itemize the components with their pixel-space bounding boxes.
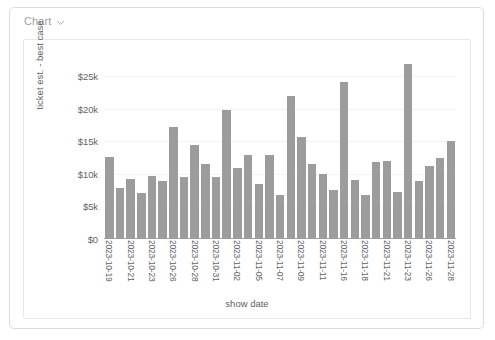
- bar[interactable]: [340, 82, 348, 238]
- bar[interactable]: [361, 195, 369, 238]
- x-tick-slot: [136, 240, 147, 302]
- x-axis-tick-label: 2023-11-18: [360, 240, 370, 281]
- x-axis-tick-label: 2023-11-21: [382, 240, 392, 281]
- bar[interactable]: [372, 162, 380, 238]
- bar[interactable]: [233, 168, 241, 238]
- x-tick-slot: 2023-11-18: [360, 240, 371, 302]
- bar[interactable]: [276, 195, 284, 238]
- x-axis-tick-label: 2023-11-28: [446, 240, 456, 281]
- x-axis-tick-label: 2023-11-11: [318, 240, 328, 280]
- bar[interactable]: [169, 127, 177, 238]
- card-header: Chart: [10, 8, 483, 34]
- chart-card: Chart ticket est. - best case $0$5k$10k$…: [9, 7, 484, 329]
- x-axis-tick-label: 2023-10-23: [147, 240, 157, 281]
- bar-series: [104, 60, 456, 238]
- x-tick-slot: 2023-11-05: [253, 240, 264, 302]
- x-tick-slot: [392, 240, 403, 302]
- y-axis-tick-label: $20k: [78, 103, 98, 114]
- x-tick-slot: 2023-11-21: [381, 240, 392, 302]
- bar[interactable]: [329, 190, 337, 238]
- bar[interactable]: [319, 174, 327, 238]
- x-tick-slot: 2023-11-07: [275, 240, 286, 302]
- x-axis-tick-label: 2023-11-16: [339, 240, 349, 281]
- bar[interactable]: [180, 177, 188, 238]
- plot-area: [104, 60, 456, 239]
- bar[interactable]: [222, 110, 230, 238]
- bar[interactable]: [158, 181, 166, 238]
- x-tick-slot: 2023-11-16: [339, 240, 350, 302]
- x-tick-slot: 2023-11-02: [232, 240, 243, 302]
- y-axis-title: ticket est. - best case: [34, 0, 45, 130]
- y-axis-tick-label: $0: [88, 234, 98, 245]
- x-tick-slot: [157, 240, 168, 302]
- bar[interactable]: [201, 164, 209, 238]
- x-tick-slot: [115, 240, 126, 302]
- bar[interactable]: [287, 96, 295, 238]
- x-tick-slot: [285, 240, 296, 302]
- bar[interactable]: [190, 145, 198, 238]
- bar[interactable]: [116, 188, 124, 238]
- x-tick-slot: [371, 240, 382, 302]
- bar[interactable]: [436, 158, 444, 238]
- x-tick-slot: [328, 240, 339, 302]
- x-tick-slot: [264, 240, 275, 302]
- x-tick-slot: 2023-11-09: [296, 240, 307, 302]
- bar[interactable]: [297, 137, 305, 238]
- x-axis-tick-label: 2023-11-26: [424, 240, 434, 281]
- plot-panel: ticket est. - best case $0$5k$10k$15k$20…: [23, 39, 471, 319]
- x-tick-slot: 2023-10-26: [168, 240, 179, 302]
- x-tick-slot: [435, 240, 446, 302]
- x-axis-tick-label: 2023-11-07: [275, 240, 285, 281]
- x-axis-tick-label: 2023-10-31: [211, 240, 221, 281]
- x-axis-tick-label: 2023-11-05: [254, 240, 264, 281]
- bar[interactable]: [137, 193, 145, 238]
- x-axis-tick-label: 2023-11-23: [403, 240, 413, 281]
- x-axis-tick-label: 2023-10-19: [104, 240, 114, 281]
- y-axis-tick-label: $25k: [78, 71, 98, 82]
- x-axis-tick-label: 2023-11-02: [232, 240, 242, 281]
- bar[interactable]: [404, 64, 412, 238]
- bar[interactable]: [383, 161, 391, 238]
- x-tick-slot: [413, 240, 424, 302]
- bar[interactable]: [105, 157, 113, 238]
- x-tick-slot: 2023-10-31: [211, 240, 222, 302]
- y-axis-tick-label: $10k: [78, 168, 98, 179]
- x-tick-slot: 2023-11-26: [424, 240, 435, 302]
- bar[interactable]: [148, 176, 156, 238]
- y-axis-tick-label: $5k: [83, 201, 98, 212]
- bar[interactable]: [393, 192, 401, 238]
- x-tick-slot: 2023-11-23: [403, 240, 414, 302]
- x-axis-tick-label: 2023-10-26: [168, 240, 178, 281]
- x-axis-title: show date: [24, 298, 470, 309]
- bar[interactable]: [308, 164, 316, 238]
- y-axis-tick-label: $15k: [78, 136, 98, 147]
- x-tick-slot: [179, 240, 190, 302]
- x-axis-tick-label: 2023-10-28: [190, 240, 200, 281]
- bar[interactable]: [351, 180, 359, 238]
- bar[interactable]: [212, 177, 220, 238]
- x-tick-slot: 2023-10-23: [147, 240, 158, 302]
- bar[interactable]: [265, 155, 273, 238]
- bar[interactable]: [425, 166, 433, 238]
- bar[interactable]: [415, 181, 423, 238]
- x-tick-slot: 2023-11-28: [446, 240, 457, 302]
- x-tick-slot: 2023-10-28: [189, 240, 200, 302]
- y-axis-tick-labels: $0$5k$10k$15k$20k$25k: [56, 40, 98, 318]
- x-tick-slot: [221, 240, 232, 302]
- x-axis-tick-labels: 2023-10-192023-10-212023-10-232023-10-26…: [104, 240, 456, 302]
- x-tick-slot: 2023-10-19: [104, 240, 115, 302]
- bar[interactable]: [244, 155, 252, 238]
- x-tick-slot: [307, 240, 318, 302]
- x-tick-slot: [200, 240, 211, 302]
- x-tick-slot: 2023-10-21: [125, 240, 136, 302]
- bar[interactable]: [447, 141, 455, 238]
- x-tick-slot: [349, 240, 360, 302]
- chevron-down-icon: [56, 18, 65, 27]
- bar[interactable]: [255, 184, 263, 238]
- bar[interactable]: [126, 179, 134, 238]
- x-axis-tick-label: 2023-10-21: [126, 240, 136, 281]
- x-axis-tick-label: 2023-11-09: [296, 240, 306, 281]
- x-tick-slot: 2023-11-11: [317, 240, 328, 302]
- x-tick-slot: [243, 240, 254, 302]
